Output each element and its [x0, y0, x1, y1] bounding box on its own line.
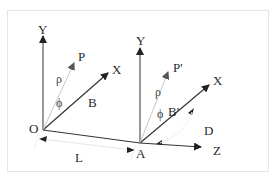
origin-o-label: O	[29, 122, 38, 135]
diagram-canvas: Y X P ρ ϕ B O Y X P' ρ ϕ B' D A Z L	[0, 0, 276, 179]
rho-a-label: ρ	[155, 86, 161, 98]
phi-a-label: ϕ	[157, 108, 163, 120]
z-axis	[140, 143, 201, 147]
origin-a-label: A	[136, 147, 145, 160]
displacement-d-label: D	[204, 124, 213, 137]
y-axis-a-label: Y	[136, 34, 145, 47]
p-vector-a	[140, 72, 168, 143]
x-axis-o	[43, 73, 108, 130]
x-axis-a-label: X	[213, 74, 222, 87]
baseline-b-label: B	[88, 96, 97, 109]
l-arrow-left	[39, 136, 47, 142]
separation-l-label: L	[75, 151, 83, 164]
point-p-label: P	[78, 50, 85, 63]
point-p-prime-label: P'	[173, 61, 183, 74]
z-axis-label: Z	[213, 144, 221, 157]
rho-o-label: ρ	[56, 73, 62, 85]
phi-o-label: ϕ	[56, 97, 62, 109]
x-axis-o-label: X	[112, 63, 121, 76]
l-dimension	[34, 135, 136, 160]
y-axis-o-label: Y	[38, 23, 47, 36]
baseline-b-prime-label: B'	[168, 105, 179, 118]
frame-o	[43, 36, 108, 130]
